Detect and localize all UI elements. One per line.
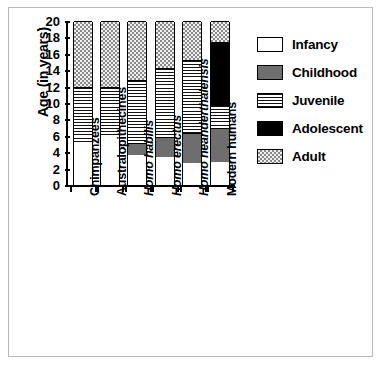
legend-item-adolescent[interactable]: Adolescent <box>257 114 375 142</box>
legend-swatch-childhood <box>257 65 283 80</box>
x-axis-label: Homo habilis <box>142 120 156 196</box>
x-tick-mark <box>70 186 72 192</box>
legend-item-infancy[interactable]: Infancy <box>257 30 375 58</box>
x-axis-label: Chimpanzees <box>88 118 102 196</box>
y-tick-label: 12 <box>46 80 60 95</box>
legend-label: Adult <box>292 149 326 164</box>
bar-segment-adolescent <box>211 42 229 104</box>
legend-swatch-adolescent <box>257 121 283 136</box>
legend-label: Juvenile <box>292 93 344 108</box>
y-tick-mark <box>65 37 70 39</box>
y-tick-label: 20 <box>46 14 60 29</box>
legend-label: Childhood <box>292 65 357 80</box>
legend-item-adult[interactable]: Adult <box>257 142 375 170</box>
y-tick-label: 14 <box>46 63 60 78</box>
y-tick-mark <box>65 54 70 56</box>
legend-swatch-adult <box>257 149 283 164</box>
y-tick-label: 8 <box>53 112 60 127</box>
bar-segment-adult <box>156 21 174 68</box>
legend-swatch-infancy <box>257 37 283 52</box>
y-tick-label: 10 <box>46 96 60 111</box>
y-tick-mark <box>65 70 70 72</box>
bar-segment-adult <box>74 21 92 87</box>
y-tick-mark <box>65 87 70 89</box>
bar-segment-adult <box>183 21 201 60</box>
y-tick-label: 2 <box>53 162 60 177</box>
legend: InfancyChildhoodJuvenileAdolescentAdult <box>257 30 375 170</box>
x-axis-label: Australopithecines <box>115 87 129 196</box>
legend-swatch-juvenile <box>257 93 283 108</box>
figure-panel: Age (in years) 02468101214161820 Chimpan… <box>8 7 373 357</box>
bar-segment-adult <box>211 21 229 42</box>
x-axis-label: Homo neanderthalensis <box>197 59 211 197</box>
legend-label: Infancy <box>292 37 338 52</box>
y-tick-label: 16 <box>46 47 60 62</box>
legend-label: Adolescent <box>292 121 363 136</box>
y-tick-mark <box>65 103 70 105</box>
y-tick-mark <box>65 136 70 138</box>
legend-item-juvenile[interactable]: Juvenile <box>257 86 375 114</box>
y-tick-mark <box>65 119 70 121</box>
bar-segment-adult <box>101 21 119 87</box>
x-axis-label: Homo erectus <box>170 115 184 196</box>
y-tick-mark <box>65 169 70 171</box>
y-tick-label: 4 <box>53 145 60 160</box>
bar-segment-adult <box>128 21 146 80</box>
y-tick-label: 0 <box>53 178 60 193</box>
y-tick-label: 6 <box>53 129 60 144</box>
y-tick-label: 18 <box>46 30 60 45</box>
legend-item-childhood[interactable]: Childhood <box>257 58 375 86</box>
y-tick-mark <box>65 21 70 23</box>
x-axis-label: Modern humans <box>225 102 239 196</box>
y-tick-mark <box>65 152 70 154</box>
